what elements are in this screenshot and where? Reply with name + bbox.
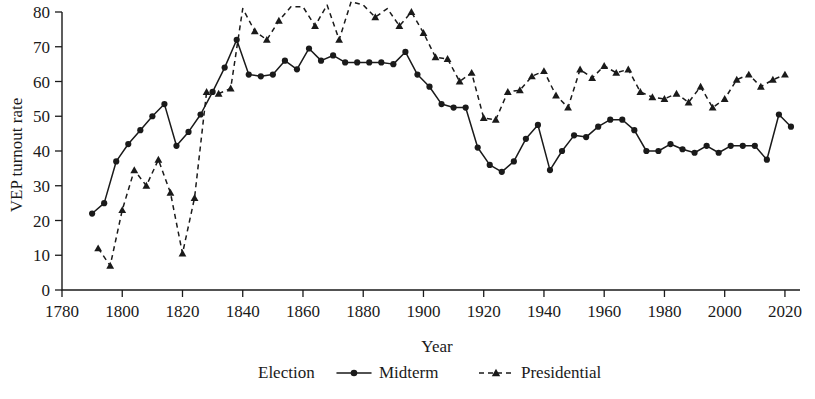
data-point-midterm [547, 167, 553, 173]
data-point-midterm [294, 66, 300, 72]
data-point-presidential [468, 69, 476, 76]
data-point-midterm [583, 134, 589, 140]
data-point-midterm [438, 101, 444, 107]
data-point-midterm [631, 127, 637, 133]
data-point-midterm [559, 148, 565, 154]
y-tick-label: 60 [33, 73, 50, 92]
y-tick-label: 80 [33, 3, 50, 22]
chart-figure: 0102030405060708017801800182018401860188… [0, 0, 815, 399]
data-point-midterm [414, 71, 420, 77]
data-point-presidential [504, 88, 512, 95]
data-point-midterm [788, 124, 794, 130]
data-point-midterm [463, 104, 469, 110]
data-point-presidential [564, 104, 572, 111]
x-axis-title: Year [421, 337, 453, 356]
series-lines-group [92, 2, 791, 266]
data-point-midterm [354, 59, 360, 65]
data-point-midterm [149, 113, 155, 119]
x-tick-label: 1940 [527, 302, 561, 321]
data-point-midterm [764, 157, 770, 163]
data-point-midterm [607, 117, 613, 123]
data-point-presidential [106, 262, 114, 269]
data-point-midterm [210, 89, 216, 95]
data-point-presidential [636, 88, 644, 95]
data-point-presidential [612, 69, 620, 76]
data-point-midterm [282, 58, 288, 64]
data-point-presidential [757, 83, 765, 90]
data-point-presidential [781, 71, 789, 78]
x-tick-label: 1780 [45, 302, 79, 321]
data-point-midterm [185, 129, 191, 135]
data-point-midterm [752, 143, 758, 149]
data-point-midterm [679, 146, 685, 152]
y-axis-title: VEP turnout rate [7, 98, 26, 213]
data-point-presidential [480, 114, 488, 121]
data-point-midterm [450, 104, 456, 110]
data-point-presidential [745, 71, 753, 78]
data-point-midterm [270, 71, 276, 77]
vep-turnout-line-chart: 0102030405060708017801800182018401860188… [0, 0, 815, 399]
chart-legend: ElectionMidtermPresidential [258, 363, 602, 382]
x-tick-label: 1920 [467, 302, 501, 321]
y-tick-label: 40 [33, 142, 50, 161]
data-point-midterm [246, 71, 252, 77]
x-tick-label: 2020 [768, 302, 802, 321]
data-point-midterm [125, 141, 131, 147]
x-tick-label: 1900 [406, 302, 440, 321]
data-point-midterm [161, 101, 167, 107]
series-line-presidential [98, 2, 785, 266]
y-tick-label: 10 [33, 246, 50, 265]
data-point-presidential [673, 90, 681, 97]
data-point-midterm [366, 59, 372, 65]
data-point-midterm [101, 200, 107, 206]
legend-label-midterm: Midterm [379, 363, 439, 382]
data-point-presidential [588, 74, 596, 81]
data-point-midterm [342, 59, 348, 65]
legend-marker-midterm [351, 370, 358, 377]
data-point-presidential [552, 92, 560, 99]
data-point-midterm [499, 169, 505, 175]
data-point-presidential [179, 250, 187, 257]
data-point-midterm [113, 158, 119, 164]
y-tick-label: 70 [33, 38, 50, 57]
data-point-midterm [330, 52, 336, 58]
ticks-group: 0102030405060708017801800182018401860188… [33, 3, 802, 321]
series-markers-group [89, 8, 794, 269]
series-line-midterm [92, 40, 791, 214]
data-point-presidential [118, 206, 126, 213]
data-point-presidential [600, 62, 608, 69]
data-point-midterm [487, 162, 493, 168]
x-tick-label: 1880 [346, 302, 380, 321]
data-point-midterm [667, 141, 673, 147]
data-point-midterm [523, 136, 529, 142]
data-point-midterm [691, 150, 697, 156]
data-point-presidential [227, 85, 235, 92]
data-point-presidential [275, 17, 283, 24]
data-point-presidential [697, 83, 705, 90]
data-point-midterm [655, 148, 661, 154]
legend-title: Election [258, 363, 315, 382]
data-point-midterm [704, 143, 710, 149]
data-point-presidential [420, 29, 428, 36]
data-point-presidential [154, 156, 162, 163]
x-tick-label: 1800 [105, 302, 139, 321]
data-point-presidential [444, 55, 452, 62]
x-tick-label: 1820 [165, 302, 199, 321]
data-point-midterm [619, 117, 625, 123]
data-point-presidential [130, 166, 138, 173]
x-tick-label: 2000 [708, 302, 742, 321]
data-point-midterm [776, 111, 782, 117]
y-tick-label: 30 [33, 177, 50, 196]
y-tick-label: 50 [33, 107, 50, 126]
data-point-presidential [251, 27, 259, 34]
data-point-presidential [408, 8, 416, 15]
x-tick-label: 1840 [226, 302, 260, 321]
data-point-presidential [167, 189, 175, 196]
y-tick-label: 20 [33, 212, 50, 231]
data-point-presidential [94, 244, 102, 251]
data-point-midterm [390, 61, 396, 67]
data-point-midterm [571, 132, 577, 138]
plot-area [89, 2, 794, 269]
data-point-midterm [535, 122, 541, 128]
data-point-presidential [203, 88, 211, 95]
